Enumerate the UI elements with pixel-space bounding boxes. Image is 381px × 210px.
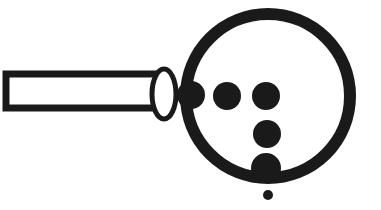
dot-4 — [253, 120, 281, 148]
magnifier-handle — [6, 74, 164, 108]
dot-5 — [251, 153, 281, 183]
dot-3 — [252, 82, 280, 110]
figure-root: Magnifying glass illustration with six b… — [0, 0, 381, 210]
dot-2 — [213, 82, 241, 110]
dot-1 — [177, 81, 205, 109]
dot-6 — [263, 190, 273, 200]
magnifier-ferrule — [152, 69, 176, 119]
magnifying-glass-illustration — [0, 0, 381, 210]
